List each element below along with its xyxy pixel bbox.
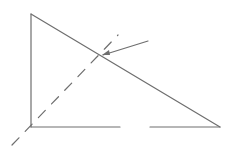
geometry-diagram: [0, 0, 235, 151]
triangle-hypotenuse: [31, 14, 220, 127]
pointer-arrow-head-icon: [102, 50, 110, 55]
dashed-line: [12, 35, 118, 145]
